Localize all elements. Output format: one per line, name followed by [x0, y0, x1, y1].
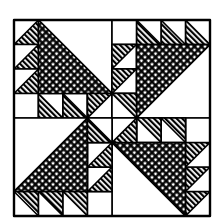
plain-square [112, 20, 137, 45]
plain-square [88, 192, 113, 217]
plain-square [14, 94, 39, 119]
quilt-block-drawing [0, 0, 222, 218]
plain-square [186, 118, 211, 143]
quilt-block [14, 20, 210, 216]
